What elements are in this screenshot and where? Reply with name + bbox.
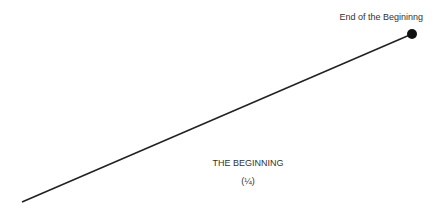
timeline-diagram [0,0,437,219]
endpoint-dot-icon [407,29,417,39]
fraction-label: (¼) [0,176,437,186]
title-label: THE BEGINNING [0,158,437,168]
end-label: End of the Begininng [339,12,423,22]
